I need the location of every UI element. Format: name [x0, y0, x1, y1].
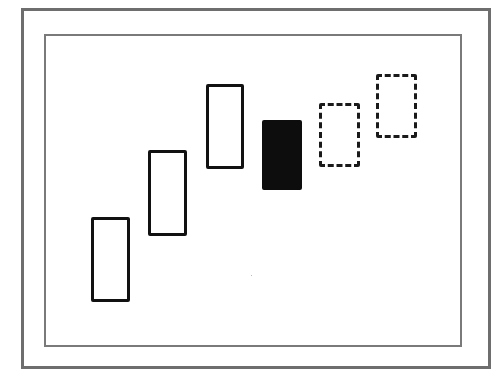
- hollow-candle-3: [206, 84, 244, 169]
- stray-dot: [251, 275, 252, 276]
- filled-candle-4: [262, 120, 302, 190]
- hollow-candle-1: [91, 217, 130, 302]
- dashed-candle-5: [319, 103, 360, 167]
- dashed-candle-6: [376, 74, 417, 138]
- hollow-candle-2: [148, 150, 187, 236]
